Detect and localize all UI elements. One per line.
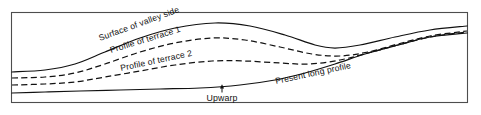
- curve-surface-of-valley-side: [12, 23, 467, 72]
- curve-present-long-profile: [12, 33, 467, 93]
- curve-profile-of-terrace-2: [12, 32, 467, 85]
- upwarp-arrow: [220, 84, 224, 92]
- curve-profile-of-terrace-1: [12, 31, 467, 78]
- diagram-canvas: Upwarp Surface of valley side Profile of…: [0, 0, 481, 115]
- terrace-profile-figure: Upwarp Surface of valley side Profile of…: [0, 0, 481, 115]
- label-upwarp: Upwarp: [206, 93, 237, 103]
- label-profile-of-terrace-2: Profile of terrace 2: [119, 48, 193, 73]
- diagram-frame: [12, 13, 468, 103]
